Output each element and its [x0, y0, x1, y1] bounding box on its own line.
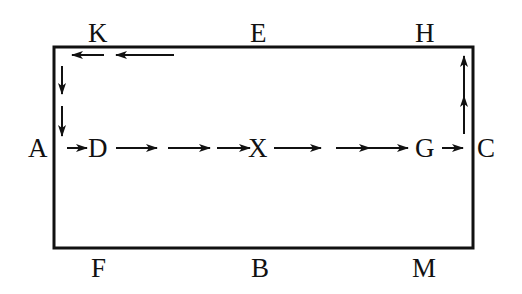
label-m: M [412, 253, 436, 283]
label-g: G [415, 133, 435, 163]
label-c: C [477, 133, 495, 163]
label-k: K [88, 18, 108, 48]
label-f: F [91, 253, 106, 283]
label-x: X [248, 133, 268, 163]
label-e: E [250, 18, 267, 48]
label-h: H [415, 18, 435, 48]
label-b: B [251, 253, 269, 283]
label-d: D [88, 133, 108, 163]
label-a: A [28, 133, 48, 163]
flow-diagram: K E H A D X G C F B M [0, 0, 522, 294]
